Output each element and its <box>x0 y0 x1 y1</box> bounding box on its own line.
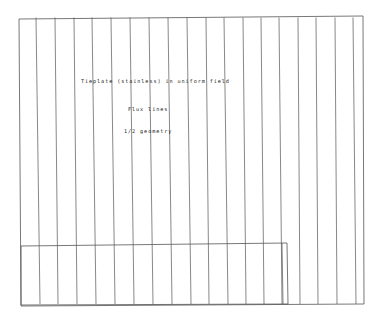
geometry-note: 1/2 geometry <box>124 128 172 135</box>
flux-plot: Tieplate (stainless) in uniform field Fl… <box>0 0 381 322</box>
figure-title: Tieplate (stainless) in uniform field <box>81 78 230 85</box>
figure-subtitle: Flux lines <box>128 106 168 112</box>
